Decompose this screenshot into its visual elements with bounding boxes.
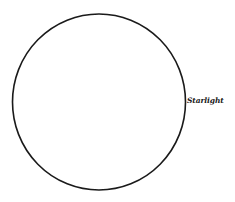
circle-label: Starlight <box>187 96 224 105</box>
starlight-circle <box>13 14 186 190</box>
